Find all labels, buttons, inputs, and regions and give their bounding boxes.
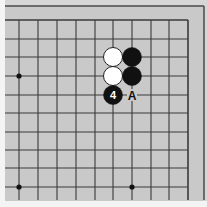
point-label-a: A: [128, 89, 137, 103]
white-stone: [104, 67, 123, 86]
board-surface: [5, 6, 204, 201]
black-stone: [123, 48, 142, 67]
point-labels: A: [128, 89, 137, 103]
stone-move-number: 4: [110, 89, 117, 101]
go-board-diagram: 4 A: [0, 0, 207, 207]
white-stone: [104, 48, 123, 67]
black-stone: 4: [104, 86, 123, 105]
star-point: [16, 73, 21, 78]
black-stone: [123, 67, 142, 86]
star-point: [16, 184, 21, 189]
star-point: [129, 184, 134, 189]
